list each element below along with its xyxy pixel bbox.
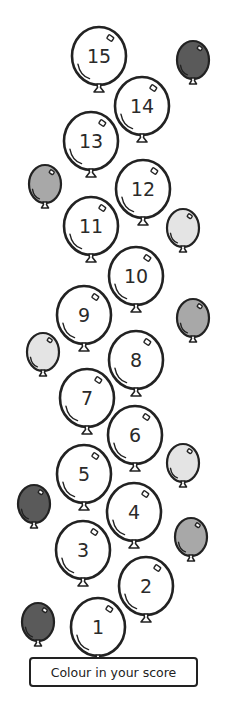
decor-balloon-medium [25, 162, 65, 218]
balloon-icon [163, 441, 203, 497]
balloon-number: 15 [68, 47, 130, 66]
balloon-icon [18, 600, 58, 656]
instruction-text: Colour in your score [51, 665, 177, 680]
balloon-icon [171, 515, 211, 571]
decor-balloon-dark [14, 482, 54, 538]
decor-balloon-medium [171, 515, 211, 571]
decor-balloon-dark [18, 600, 58, 656]
balloon-icon [173, 38, 213, 94]
balloon-score-worksheet: 123456789101112131415 [0, 0, 230, 705]
decor-balloon-medium [173, 296, 213, 352]
balloon-icon [173, 296, 213, 352]
score-balloon-15[interactable]: 15 [68, 24, 130, 100]
score-balloon-2[interactable]: 2 [115, 554, 177, 630]
balloon-icon [25, 162, 65, 218]
balloon-icon [14, 482, 54, 538]
decor-balloon-light [163, 441, 203, 497]
colour-in-your-score-label: Colour in your score [29, 657, 198, 687]
balloon-number: 2 [115, 577, 177, 596]
decor-balloon-dark [173, 38, 213, 94]
